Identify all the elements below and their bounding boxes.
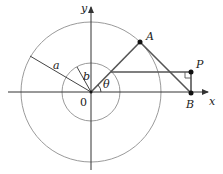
x-axis-label: x [209, 96, 215, 107]
diagram-canvas [0, 0, 223, 174]
point-A-label: A [146, 31, 154, 42]
radius-a-label: a [53, 60, 60, 71]
point-P-label: P [196, 59, 203, 70]
y-axis-label: y [81, 3, 87, 14]
point-A-dot [138, 40, 143, 45]
origin-label: 0 [80, 97, 87, 108]
radius-b-label: b [83, 71, 90, 82]
origin-dot [90, 91, 93, 94]
radius-a-line [30, 56, 91, 92]
line-AB [140, 42, 191, 93]
theta-label: θ [103, 79, 110, 90]
theta-arc [98, 85, 101, 92]
point-B-dot [189, 91, 194, 96]
point-P-dot [189, 70, 194, 75]
line-OA [91, 42, 140, 92]
point-B-label: B [186, 99, 194, 110]
